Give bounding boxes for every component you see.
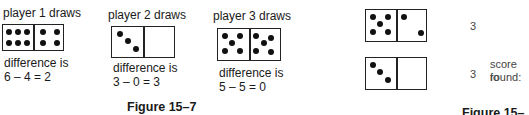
- pip: [222, 48, 228, 54]
- domino-player-2: [111, 26, 175, 58]
- pip: [377, 21, 383, 27]
- pip: [253, 33, 259, 39]
- pip: [6, 40, 12, 46]
- player-1-title: player 1 draws: [3, 7, 81, 20]
- pip: [370, 14, 376, 20]
- player-2-diff-eq: 3 – 0 = 3: [113, 76, 160, 89]
- figure-15-8-caption: Figure 15–8: [462, 106, 529, 115]
- pip: [401, 14, 407, 20]
- pip: [125, 38, 131, 44]
- pip: [268, 35, 274, 41]
- pip: [237, 33, 243, 39]
- pip: [54, 40, 60, 46]
- row-2-value: 3: [470, 68, 476, 80]
- domino-half-five: [218, 29, 249, 60]
- pip: [253, 48, 259, 54]
- pip: [222, 33, 228, 39]
- pip: [15, 40, 21, 46]
- domino-player-1: [2, 24, 64, 51]
- pip: [418, 30, 424, 36]
- player-2-diff-label: difference is: [113, 62, 177, 75]
- pip: [385, 77, 391, 83]
- row-1-value: 3: [470, 20, 476, 32]
- player-3-title: player 3 draws: [213, 10, 291, 23]
- domino-row-1: [365, 9, 427, 42]
- pip: [385, 29, 391, 35]
- domino-half-blank: [398, 58, 426, 89]
- domino-half-six: [3, 25, 34, 50]
- pip: [40, 40, 46, 46]
- domino-player-3: [217, 28, 281, 61]
- domino-half-four: [35, 25, 63, 50]
- pip: [237, 48, 243, 54]
- domino-half-three: [112, 27, 144, 57]
- domino-half-three: [366, 58, 396, 89]
- pip: [229, 40, 235, 46]
- domino-half-blank: [145, 27, 174, 57]
- pip: [24, 29, 30, 35]
- pip: [370, 62, 376, 68]
- pip: [261, 40, 267, 46]
- pip: [117, 31, 123, 37]
- player-1-diff-eq: 6 – 4 = 2: [4, 71, 51, 84]
- player-3-diff-eq: 5 – 5 = 0: [219, 81, 266, 94]
- pip: [15, 29, 21, 35]
- domino-row-2: [365, 57, 427, 90]
- pip: [24, 40, 30, 46]
- domino-half-five: [366, 10, 396, 41]
- domino-half-two: [398, 10, 426, 41]
- pip: [370, 29, 376, 35]
- pip: [385, 14, 391, 20]
- domino-half-five: [251, 29, 280, 60]
- pip: [268, 49, 274, 55]
- figure-15-7-caption: Figure 15–7: [127, 100, 196, 114]
- pip: [133, 46, 139, 52]
- pip: [54, 29, 60, 35]
- player-2-title: player 2 draws: [108, 9, 186, 22]
- player-3-diff-label: difference is: [219, 67, 283, 80]
- player-1-diff-label: difference is: [4, 57, 68, 70]
- pip: [377, 69, 383, 75]
- score-label-line-2: round:: [490, 71, 521, 84]
- pip: [6, 29, 12, 35]
- pip: [40, 29, 46, 35]
